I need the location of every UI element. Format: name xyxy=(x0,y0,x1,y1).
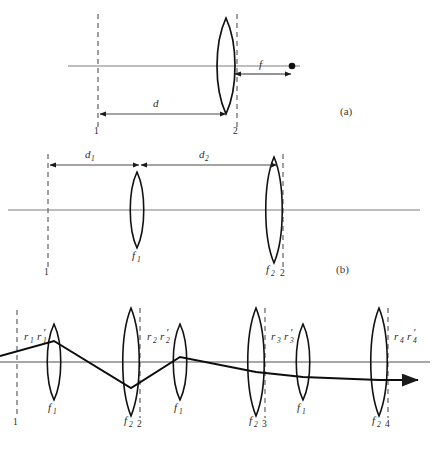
ray-label-2: r 2 r 2 ′ xyxy=(147,326,170,345)
panel-label-b: (b) xyxy=(336,263,349,275)
focal-point-dot-a xyxy=(289,63,296,70)
lens-sub-c-f1-b: 1 xyxy=(179,407,183,416)
lens-sub-c-f2-c: 2 xyxy=(377,420,381,429)
ray-label-1-sub: 1 xyxy=(30,336,34,345)
lens-sub-c-f1-a: 1 xyxy=(53,407,57,416)
ray-label-1: r 1 r 1 ′ xyxy=(24,326,47,345)
ray-label-3: r 3 r 3 ′ xyxy=(271,326,294,345)
ray-label-2-sub: 2 xyxy=(153,336,157,345)
ray-diagram-svg: d f 1 2 d 1 d 2 xyxy=(0,0,438,452)
plane-tick-4-c: 4 xyxy=(385,419,390,429)
panel-b: d 1 d 2 f 1 f 2 1 2 xyxy=(8,148,420,278)
lens-sub-c-f2-a: 2 xyxy=(129,420,133,429)
ray-label-4-r: r xyxy=(394,330,399,342)
ray-label-3-sub: 3 xyxy=(276,336,281,345)
ray-label-4-rprime: r xyxy=(407,330,412,342)
optics-figure: d f 1 2 d 1 d 2 xyxy=(0,0,438,452)
ray-label-4: r 4 r 4 ′ xyxy=(394,326,417,345)
plane-tick-1-b: 1 xyxy=(44,267,49,277)
panel-label-a: (a) xyxy=(340,105,352,117)
ray-label-3-rprime: r xyxy=(284,330,289,342)
plane-tick-1-a: 1 xyxy=(94,126,99,136)
plane-tick-2-a: 2 xyxy=(233,126,238,136)
ray-label-4-sub: 4 xyxy=(400,336,404,345)
plane-tick-1-c: 1 xyxy=(13,417,18,427)
dimension-d-label: d xyxy=(153,97,159,109)
plane-tick-3-c: 3 xyxy=(262,419,267,429)
dimension-f-label: f xyxy=(259,58,264,70)
plane-tick-2-c: 2 xyxy=(137,419,142,429)
traced-ray-path xyxy=(0,341,418,388)
lens-sub-b-f2: 2 xyxy=(271,269,275,278)
ray-label-2-rprime: r xyxy=(160,330,165,342)
ray-label-1-r: r xyxy=(24,330,29,342)
dimension-d1-sub: 1 xyxy=(91,154,95,163)
lens-sub-c-f2-b: 2 xyxy=(254,420,258,429)
ray-label-2-r: r xyxy=(147,330,152,342)
lens-sub-b-f1: 1 xyxy=(137,255,141,264)
ray-label-3-r: r xyxy=(271,330,276,342)
panel-a: d f 1 2 xyxy=(68,14,300,136)
ray-label-1-rprime: r xyxy=(37,330,42,342)
plane-tick-2-b: 2 xyxy=(280,268,285,278)
dimension-d2-sub: 2 xyxy=(205,154,209,163)
panel-c: r 1 r 1 ′ r 2 r 2 ′ r 3 r 3 ′ r xyxy=(0,308,430,429)
lens-sub-c-f1-c: 1 xyxy=(302,407,306,416)
